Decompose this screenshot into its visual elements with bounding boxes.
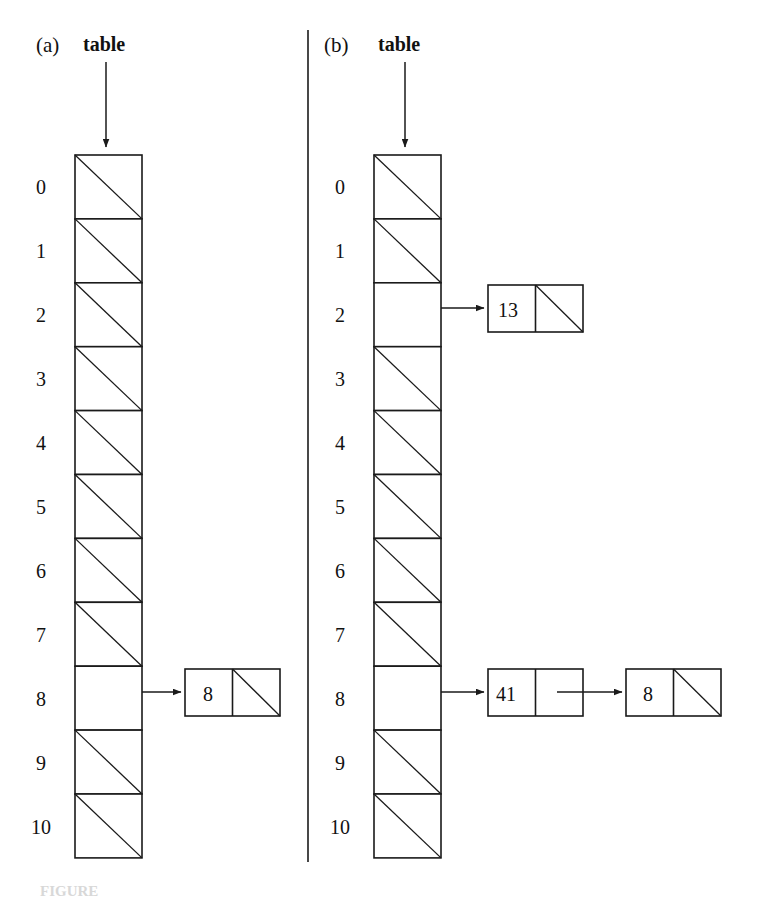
panel-a-slot-2[interactable]: 2 [36,283,142,347]
panel-b-slot-1[interactable]: 1 [335,219,441,283]
panel-a-node-8-value: 8 [203,683,213,705]
panel-b-slot-7-label: 7 [335,624,345,646]
panel-a-slot-10[interactable]: 10 [31,794,142,858]
panel-b-node-13-value: 13 [498,299,518,321]
panel-b-slot-6[interactable]: 6 [335,538,441,602]
panel-b-slot-10[interactable]: 10 [330,794,441,858]
panel-a-slot-8-box [75,666,142,730]
panel-b-slot-7[interactable]: 7 [335,602,441,666]
figure-caption: FIGURE [40,883,98,899]
panel-b-chain-slot-8: 41 8 [441,669,721,716]
panel-a-slot-0[interactable]: 0 [36,155,142,219]
hash-table-figure: (a) table 0 1 [0,0,763,899]
panel-b-slot-1-label: 1 [335,240,345,262]
panel-a-slot-7[interactable]: 7 [36,602,142,666]
panel-b-slot-2-box [374,283,441,347]
panel-b-slot-0[interactable]: 0 [335,155,441,219]
panel-a-slot-1[interactable]: 1 [36,219,142,283]
panel-b-slot-9-label: 9 [335,752,345,774]
panel-a-slot-6[interactable]: 6 [36,538,142,602]
panel-a-slot-3[interactable]: 3 [36,347,142,411]
panel-b-slot-6-label: 6 [335,560,345,582]
panel-a-slot-6-label: 6 [36,560,46,582]
panel-a: (a) table 0 1 [31,33,280,858]
panel-b-node-8[interactable]: 8 [626,669,721,716]
panel-b-slot-2-label: 2 [335,304,345,326]
panel-b-slot-3-label: 3 [335,368,345,390]
panel-a-slot-2-label: 2 [36,304,46,326]
panel-b: (b) table 0 1 2 [324,33,721,858]
panel-a-slot-5-label: 5 [36,496,46,518]
panel-b-chain-slot-2: 13 [441,285,583,332]
panel-b-node-8-value: 8 [643,683,653,705]
panel-a-chain-slot-8: 8 [142,669,280,716]
panel-a-slot-4-label: 4 [36,432,46,454]
panel-b-slot-4-label: 4 [335,432,345,454]
panel-b-slot-3[interactable]: 3 [335,347,441,411]
panel-a-slot-8[interactable]: 8 [36,666,142,730]
panel-b-slot-10-label: 10 [330,816,350,838]
panel-b-node-41-value: 41 [496,683,516,705]
panel-a-slot-8-label: 8 [36,688,46,710]
panel-a-slot-0-label: 0 [36,176,46,198]
panel-b-slot-0-label: 0 [335,176,345,198]
panel-a-table-pointer-label: table [83,33,125,55]
panel-a-table: 0 1 2 3 [31,155,142,858]
panel-a-slot-9[interactable]: 9 [36,730,142,794]
figure-root: (a) table 0 1 [0,0,763,899]
panel-a-slot-7-label: 7 [36,624,46,646]
panel-b-slot-5-label: 5 [335,496,345,518]
panel-b-table-pointer-label: table [378,33,420,55]
panel-a-slot-5[interactable]: 5 [36,475,142,539]
panel-a-slot-3-label: 3 [36,368,46,390]
panel-b-table: 0 1 2 3 [330,155,441,858]
panel-b-slot-4[interactable]: 4 [335,411,441,475]
panel-b-slot-5[interactable]: 5 [335,475,441,539]
panel-a-slot-1-label: 1 [36,240,46,262]
panel-a-slot-4[interactable]: 4 [36,411,142,475]
panel-a-label: (a) [36,33,59,57]
panel-b-slot-8-label: 8 [335,688,345,710]
panel-a-slot-9-label: 9 [36,752,46,774]
panel-b-slot-8[interactable]: 8 [335,666,441,730]
panel-a-slot-10-label: 10 [31,816,51,838]
panel-b-node-13[interactable]: 13 [488,285,583,332]
panel-b-slot-9[interactable]: 9 [335,730,441,794]
panel-a-node-8[interactable]: 8 [185,669,280,716]
panel-b-slot-8-box [374,666,441,730]
panel-b-slot-2[interactable]: 2 [335,283,441,347]
panel-b-label: (b) [324,33,349,57]
